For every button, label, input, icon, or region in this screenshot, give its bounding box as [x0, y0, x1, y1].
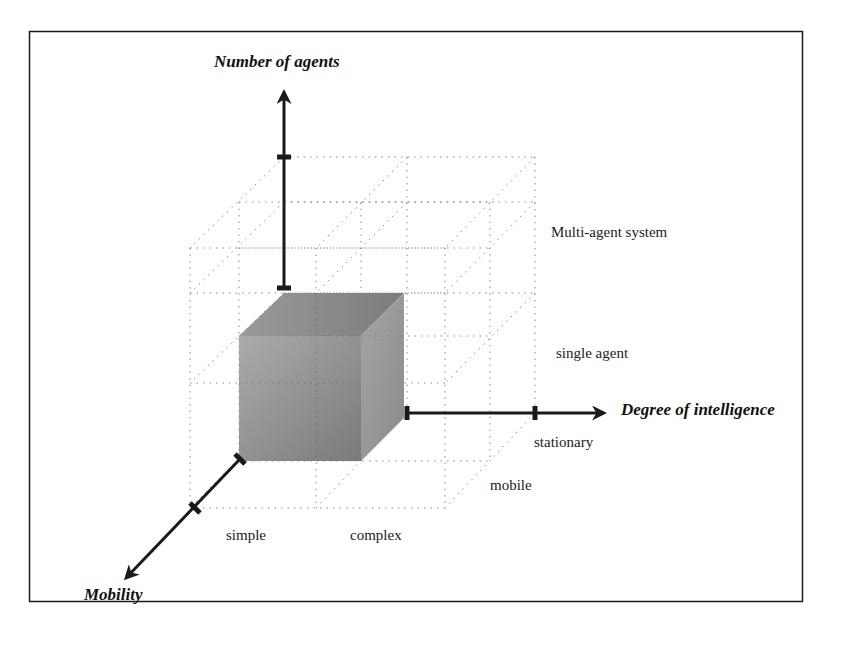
- label-stationary: stationary: [534, 434, 593, 451]
- label-single-agent: single agent: [556, 345, 628, 362]
- cube: [239, 293, 404, 461]
- axis-title-mobility: Mobility: [84, 585, 143, 605]
- diagram-frame: [30, 32, 803, 602]
- cube-front-face: [239, 336, 361, 461]
- axis-title-degree-of-intelligence: Degree of intelligence: [621, 400, 775, 420]
- diagram-svg: [0, 0, 854, 645]
- axis-title-number-of-agents: Number of agents: [214, 52, 340, 72]
- label-multi-agent-system: Multi-agent system: [551, 224, 667, 241]
- diagram-canvas: Number of agents Degree of intelligence …: [0, 0, 854, 645]
- axis-mobility: [126, 458, 241, 578]
- label-complex: complex: [350, 527, 402, 544]
- label-mobile: mobile: [490, 477, 532, 494]
- label-simple: simple: [226, 527, 266, 544]
